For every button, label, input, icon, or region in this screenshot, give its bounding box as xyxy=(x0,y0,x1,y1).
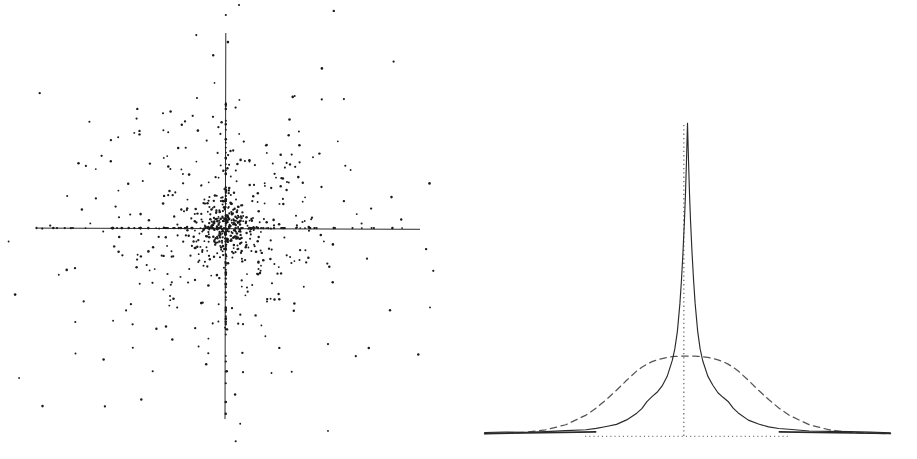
scatter-point xyxy=(165,325,167,327)
scatter-point xyxy=(288,118,291,121)
scatter-point xyxy=(279,203,281,205)
scatter-point xyxy=(233,222,235,224)
scatter-point xyxy=(176,306,178,308)
scatter-point xyxy=(286,162,288,164)
scatter-point xyxy=(251,200,253,202)
scatter-point xyxy=(225,355,227,357)
scatter-point xyxy=(273,173,275,175)
scatter-point xyxy=(180,276,182,278)
scatter-point xyxy=(74,267,76,269)
scatter-point xyxy=(230,202,232,204)
scatter-point xyxy=(273,224,275,226)
scatter-point xyxy=(215,212,217,214)
scatter-point xyxy=(219,256,221,258)
scatter-point xyxy=(400,218,402,220)
scatter-point xyxy=(241,279,243,281)
scatter-point xyxy=(205,227,207,229)
scatter-plot-panel xyxy=(0,0,458,459)
scatter-point xyxy=(219,236,221,238)
scatter-point xyxy=(138,130,140,132)
scatter-point xyxy=(250,250,252,252)
scatter-point xyxy=(239,242,241,244)
scatter-point xyxy=(295,227,297,229)
scatter-point xyxy=(202,202,204,204)
scatter-point xyxy=(224,209,226,211)
scatter-point xyxy=(235,440,237,442)
scatter-point xyxy=(225,309,227,311)
scatter-point xyxy=(139,283,141,285)
scatter-point xyxy=(180,208,182,210)
scatter-point xyxy=(334,227,336,229)
scatter-point xyxy=(219,221,221,223)
scatter-point xyxy=(138,133,140,135)
scatter-point xyxy=(305,261,307,263)
scatter-point xyxy=(318,152,320,154)
scatter-point xyxy=(95,197,97,199)
scatter-point xyxy=(247,225,249,227)
scatter-point xyxy=(209,218,212,221)
scatter-point xyxy=(225,222,227,224)
scatter-point xyxy=(140,233,142,235)
scatter-point xyxy=(225,277,227,279)
scatter-point xyxy=(212,236,215,239)
scatter-point xyxy=(127,227,130,230)
scatter-point xyxy=(225,138,227,140)
scatter-point xyxy=(304,227,306,229)
scatter-point xyxy=(304,220,306,222)
scatter-point xyxy=(236,180,238,182)
scatter-point xyxy=(218,277,220,279)
scatter-point xyxy=(256,273,258,275)
scatter-point xyxy=(371,227,373,229)
scatter-point xyxy=(301,221,303,223)
scatter-point xyxy=(233,244,235,246)
scatter-point xyxy=(225,195,227,197)
scatter-point xyxy=(121,227,123,229)
density-plot-panel xyxy=(458,0,917,459)
scatter-point xyxy=(121,254,123,256)
scatter-point xyxy=(225,274,227,276)
scatter-point xyxy=(225,401,228,404)
scatter-point xyxy=(212,54,214,56)
scatter-point xyxy=(257,227,259,229)
scatter-point xyxy=(218,231,220,233)
scatter-point xyxy=(225,225,227,227)
scatter-point xyxy=(270,228,272,230)
scatter-point xyxy=(131,323,133,325)
scatter-point xyxy=(137,254,139,256)
scatter-point xyxy=(223,267,225,269)
scatter-point xyxy=(221,242,223,244)
scatter-point xyxy=(320,234,323,237)
scatter-point xyxy=(291,371,293,373)
scatter-point xyxy=(217,152,219,154)
scatter-point xyxy=(203,265,205,267)
scatter-point xyxy=(295,215,297,217)
scatter-point xyxy=(174,191,176,193)
scatter-point xyxy=(203,240,205,242)
scatter-point xyxy=(230,211,232,213)
scatter-point xyxy=(225,245,227,247)
scatter-point xyxy=(280,177,282,179)
scatter-point xyxy=(111,227,114,230)
scatter-point xyxy=(225,306,227,308)
scatter-point xyxy=(85,227,87,229)
scatter-point xyxy=(390,196,393,199)
scatter-point xyxy=(286,254,288,256)
scatter-point xyxy=(246,273,248,275)
scatter-point xyxy=(208,255,210,257)
scatter-point xyxy=(267,227,269,229)
scatter-point xyxy=(228,164,230,166)
scatter-point xyxy=(158,228,160,230)
scatter-point xyxy=(231,307,233,309)
scatter-point xyxy=(116,227,118,229)
scatter-point xyxy=(225,360,227,362)
scatter-point xyxy=(313,227,315,229)
scatter-point xyxy=(225,283,228,286)
scatter-point xyxy=(201,221,203,223)
scatter-point xyxy=(272,219,275,222)
scatter-point xyxy=(337,140,339,142)
scatter-point xyxy=(248,247,250,249)
scatter-point xyxy=(219,245,221,247)
scatter-point xyxy=(351,227,353,229)
scatter-point xyxy=(235,199,237,201)
scatter-point xyxy=(417,353,419,355)
